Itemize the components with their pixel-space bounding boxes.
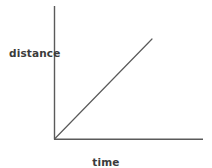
distance-time-graph: distance time	[0, 0, 212, 168]
x-axis-label-time: time	[0, 157, 212, 168]
chart-background	[0, 0, 212, 168]
y-axis-label-distance: distance	[9, 48, 61, 59]
plot-area	[0, 0, 212, 168]
